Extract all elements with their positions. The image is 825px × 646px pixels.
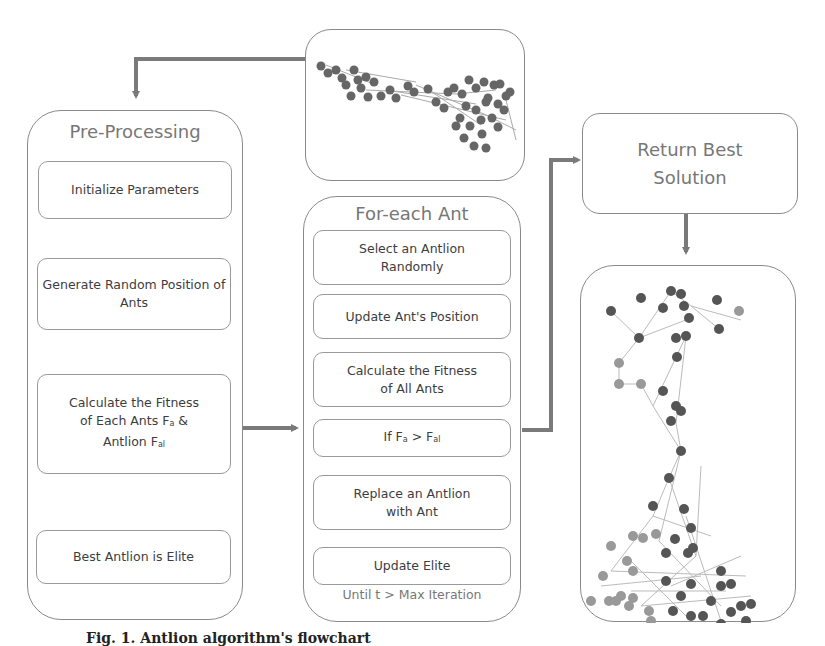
step-select-antlion: Select an AntlionRandomly [313,230,511,285]
loop-panel: For-each Ant Select an AntlionRandomly U… [303,196,521,622]
loop-termination-condition: Until t > Max Iteration [304,587,520,602]
step-update-position: Update Ant's Position [313,294,511,339]
clustered-network-graph-icon [581,266,797,623]
step-calculate-fitness-all: Calculate the Fitnessof All Ants [313,352,511,407]
step-update-elite: Update Elite [313,547,511,585]
arrow-loop-to-result [522,160,578,430]
step-replace-antlion: Replace an Antlionwith Ant [313,475,511,530]
initial-network-graph-icon [306,30,526,182]
result-title: Return Best Solution [630,136,750,192]
step-calculate-fitness-each: Calculate the Fitnessof Each Ants Fa &An… [37,374,231,474]
preprocessing-panel: Pre-Processing Initialize Parameters Gen… [27,110,243,620]
result-panel: Return Best Solution [582,113,798,214]
loop-title: For-each Ant [304,203,520,224]
output-graph-panel [580,265,796,622]
preprocessing-title: Pre-Processing [28,121,242,142]
step-best-antlion-elite: Best Antlion is Elite [36,530,231,584]
input-graph-panel [305,29,525,181]
step-initialize-parameters: Initialize Parameters [38,161,232,219]
figure-caption: Fig. 1. Antlion algorithm's flowchart [86,630,371,646]
step-compare-fitness: If Fa > Fal [313,419,511,457]
step-generate-random-position: Generate Random Position of Ants [37,258,231,330]
arrow-input-to-preprocessing [136,59,305,96]
